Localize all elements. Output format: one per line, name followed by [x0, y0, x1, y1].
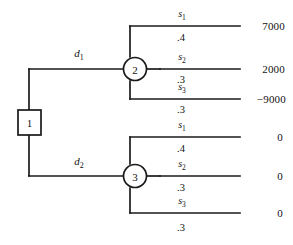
branch-label-d1: d1: [74, 48, 84, 62]
branch-label-d2: d2: [74, 156, 84, 170]
tree-edges-canvas: [0, 0, 293, 245]
state-label-bottom-s1: s1: [178, 120, 186, 133]
state-label-bottom-s2: s2: [178, 159, 186, 172]
state-label-top-s1-subscript: 1: [182, 13, 186, 22]
payoff-bottom-s2: 0: [277, 171, 283, 182]
probability-bottom-s3: .3: [177, 223, 185, 234]
decision-tree-diagram: 1 2 3 d1 d2 s1 s2 s3 .4 .3 .3 7000 2000 …: [0, 0, 293, 245]
payoff-bottom-s3: 0: [277, 208, 283, 219]
state-label-bottom-s3: s3: [178, 196, 186, 209]
chance-node-3-label: 3: [132, 171, 138, 182]
state-label-bottom-s1-subscript: 1: [182, 124, 186, 133]
payoff-top-s2: 2000: [262, 64, 285, 75]
state-label-top-s2: s2: [178, 52, 186, 65]
probability-top-s2: .3: [177, 75, 185, 86]
probability-top-s3: .3: [177, 105, 185, 116]
state-label-top-s1: s1: [178, 9, 186, 22]
probability-bottom-s1: .4: [177, 144, 185, 155]
branch-label-d1-subscript: 1: [80, 53, 84, 62]
state-label-top-s2-subscript: 2: [182, 56, 186, 65]
payoff-bottom-s1: 0: [277, 132, 283, 143]
branch-label-d2-subscript: 2: [80, 161, 84, 170]
state-label-bottom-s2-subscript: 2: [182, 163, 186, 172]
probability-bottom-s2: .3: [177, 183, 185, 194]
probability-top-s1: .4: [177, 33, 185, 44]
state-label-bottom-s3-subscript: 3: [182, 200, 186, 209]
chance-node-2-label: 2: [132, 64, 138, 75]
state-label-top-s3-subscript: 3: [182, 86, 186, 95]
payoff-top-s3: −9000: [257, 94, 286, 105]
payoff-top-s1: 7000: [262, 21, 285, 32]
decision-node-1-label: 1: [27, 117, 33, 128]
